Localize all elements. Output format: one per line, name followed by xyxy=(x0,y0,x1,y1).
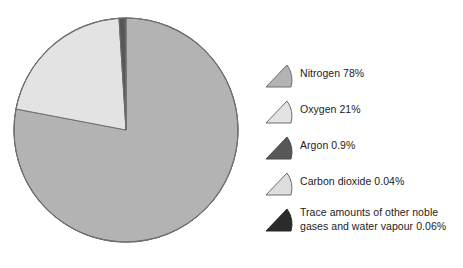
legend-label-argon: Argon 0.9% xyxy=(300,134,460,153)
legend-swatch-oxygen xyxy=(264,99,294,125)
legend-swatch-carbon-dioxide xyxy=(264,171,294,197)
legend-item-oxygen: Oxygen 21% xyxy=(264,98,460,125)
legend-label-trace-gases: Trace amounts of other noble gases and w… xyxy=(300,206,460,233)
pie-slices xyxy=(14,18,238,242)
legend-item-trace-gases: Trace amounts of other noble gases and w… xyxy=(264,206,460,233)
legend-item-nitrogen: Nitrogen 78% xyxy=(264,62,460,89)
pie-chart xyxy=(8,12,248,256)
legend-label-oxygen: Oxygen 21% xyxy=(300,98,460,117)
legend-item-carbon-dioxide: Carbon dioxide 0.04% xyxy=(264,170,460,197)
legend-item-argon: Argon 0.9% xyxy=(264,134,460,161)
legend-swatch-argon xyxy=(264,135,294,161)
legend-swatch-nitrogen xyxy=(264,63,294,89)
legend-label-nitrogen: Nitrogen 78% xyxy=(300,62,460,81)
chart-legend: Nitrogen 78% Oxygen 21% Argon 0.9% Carbo… xyxy=(264,62,460,242)
legend-swatch-trace-gases xyxy=(264,207,294,233)
legend-label-carbon-dioxide: Carbon dioxide 0.04% xyxy=(300,170,460,189)
pie-chart-figure: Nitrogen 78% Oxygen 21% Argon 0.9% Carbo… xyxy=(0,0,463,268)
